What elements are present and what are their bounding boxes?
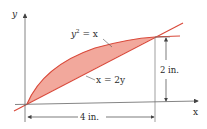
x-axis-label: x [193,107,198,117]
width-dimension-label: 4 in. [80,112,99,122]
x-axis [15,101,198,105]
line-leader [86,76,95,80]
height-dimension-label: 2 in. [160,65,179,75]
parabola-equation-label: y2 = x [70,28,98,39]
parabola-curve [27,36,180,104]
area-between-curves-diagram: y x y2 = x x = 2y 2 in. 4 in. [0,0,207,129]
parabola-eq-rest: = x [80,29,98,39]
line-curve [14,23,183,111]
line-equation-label: x = 2y [96,75,126,85]
y-axis-label: y [11,9,18,19]
